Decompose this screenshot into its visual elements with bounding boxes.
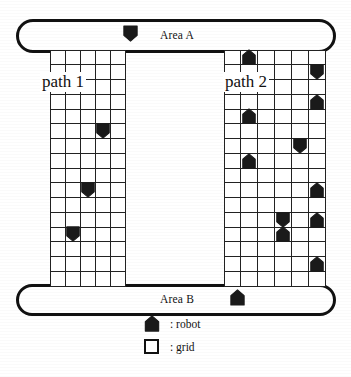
grid-cell: [80, 138, 96, 154]
grid-cell: [50, 212, 66, 228]
legend-item-grid: : grid: [142, 335, 200, 358]
grid-cell: [50, 182, 66, 198]
grid-cell: [65, 50, 81, 66]
grid-cell: [80, 271, 96, 287]
grid-cell: [240, 182, 258, 198]
robot-marker: [241, 107, 257, 125]
grid-cell: [80, 109, 96, 125]
grid-cell: [110, 168, 126, 184]
grid-cell: [110, 241, 126, 257]
grid-cell: [308, 64, 326, 80]
grid-cell: [65, 94, 81, 110]
grid-cell: [50, 138, 66, 154]
grid-cell: [291, 271, 309, 287]
grid-cell: [224, 182, 242, 198]
grid-cell: [224, 197, 242, 213]
grid-cell: [95, 227, 111, 243]
grid-cell: [291, 197, 309, 213]
grid-cell: [110, 94, 126, 110]
grid-cell: [274, 256, 292, 272]
grid-cell: [291, 138, 309, 154]
grid-cell: [257, 153, 275, 169]
legend-item-robot: : robot: [142, 312, 200, 335]
grid-cell: [65, 197, 81, 213]
grid-cell: [224, 153, 242, 169]
grid-cell: [257, 227, 275, 243]
grid-cell: [291, 153, 309, 169]
grid-cell: [240, 123, 258, 139]
grid-cell: [95, 168, 111, 184]
grid-cell: [291, 227, 309, 243]
grid-cell: [80, 182, 96, 198]
robot-marker: [275, 225, 291, 243]
grid-cell: [224, 241, 242, 257]
grid-cell: [224, 123, 242, 139]
grid-swatch-box: [144, 339, 159, 354]
grid-cell: [308, 109, 326, 125]
grid-icon: [142, 337, 161, 357]
grid-cell: [274, 241, 292, 257]
grid-cell: [274, 50, 292, 66]
grid-cell: [291, 212, 309, 228]
robot-marker: [241, 152, 257, 170]
grid-cell: [50, 271, 66, 287]
grid-cell: [274, 94, 292, 110]
grid-cell: [95, 197, 111, 213]
grid-cell: [50, 197, 66, 213]
grid-cell: [80, 123, 96, 139]
grid-cell: [95, 50, 111, 66]
path-2-label: path 2: [223, 72, 269, 92]
grid-cell: [240, 153, 258, 169]
grid-cell: [80, 256, 96, 272]
grid-cell: [95, 123, 111, 139]
grid-cell: [95, 79, 111, 95]
grid-cell: [274, 182, 292, 198]
grid-cell: [274, 79, 292, 95]
grid-cell: [308, 212, 326, 228]
grid-cell: [110, 64, 126, 80]
grid-cell: [50, 227, 66, 243]
grid-cell: [95, 153, 111, 169]
robot-marker: [80, 181, 96, 199]
robot-marker: [309, 211, 325, 229]
grid-cell: [240, 109, 258, 125]
grid-cell: [224, 227, 242, 243]
area-a-label: Area A: [160, 29, 194, 41]
grid-cell: [110, 182, 126, 198]
grid-cell: [291, 79, 309, 95]
grid-cell: [50, 50, 66, 66]
grid-cell: [65, 182, 81, 198]
grid-cell: [95, 212, 111, 228]
grid-cell: [240, 271, 258, 287]
grid-cell: [110, 212, 126, 228]
grid-cell: [80, 227, 96, 243]
grid-cell: [65, 168, 81, 184]
grid-cell: [291, 94, 309, 110]
grid-cell: [240, 197, 258, 213]
grid-cell: [65, 227, 81, 243]
grid-cell: [274, 64, 292, 80]
grid-cell: [110, 138, 126, 154]
grid-cell: [291, 256, 309, 272]
grid-cell: [80, 50, 96, 66]
grid-cell: [110, 271, 126, 287]
grid-cell: [291, 182, 309, 198]
grid-cell: [65, 271, 81, 287]
grid-cell: [257, 50, 275, 66]
grid-cell: [240, 227, 258, 243]
robot-path-diagram: Area A Area B path 1 path 2 : robot : gr…: [0, 0, 351, 377]
grid-cell: [291, 50, 309, 66]
robot-icon: [142, 314, 161, 334]
grid-cell: [240, 212, 258, 228]
grid-cell: [224, 109, 242, 125]
grid-cell: [50, 94, 66, 110]
grid-cell: [80, 153, 96, 169]
grid-cell: [274, 109, 292, 125]
grid-cell: [308, 182, 326, 198]
grid-cell: [95, 94, 111, 110]
grid-cell: [257, 109, 275, 125]
grid-cell: [65, 241, 81, 257]
grid-cell: [240, 168, 258, 184]
grid-cell: [308, 153, 326, 169]
grid-cell: [80, 241, 96, 257]
